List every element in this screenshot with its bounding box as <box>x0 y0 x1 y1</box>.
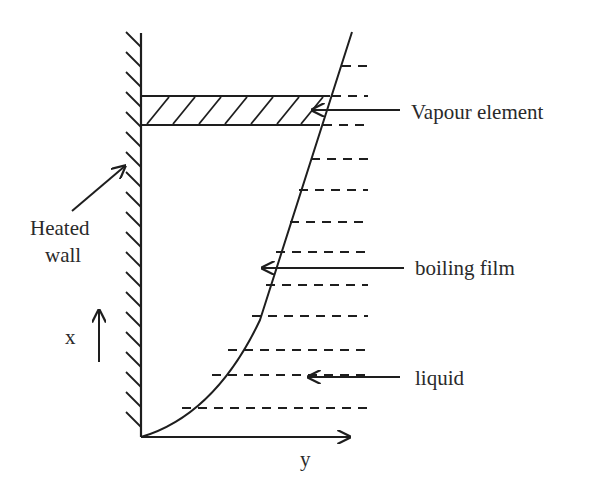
x-axis-label: x <box>65 325 76 349</box>
film-boiling-diagram: Vapour element Heated wall boiling film … <box>0 0 599 495</box>
heated-wall-pointer <box>72 166 125 211</box>
y-axis-label: y <box>300 447 311 471</box>
liquid-dashes <box>182 66 368 408</box>
heated-wall-label-line2: wall <box>45 243 81 267</box>
vapour-element-label: Vapour element <box>411 100 544 124</box>
vapour-element <box>141 96 330 125</box>
boiling-film-label: boiling film <box>415 256 515 280</box>
liquid-label: liquid <box>415 366 465 390</box>
heated-wall <box>126 32 141 437</box>
heated-wall-label-line1: Heated <box>30 216 90 240</box>
diagram-svg: Vapour element Heated wall boiling film … <box>0 0 599 495</box>
